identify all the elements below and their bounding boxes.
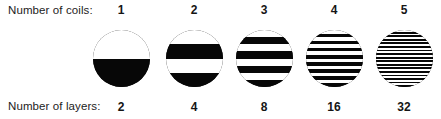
layer-count-4: 16 [324,100,344,114]
layer-band [166,59,223,73]
layer-band [236,44,293,51]
coil-cross-section-1 [93,30,150,87]
layer-band [236,66,293,73]
coil-count-5: 5 [394,3,414,17]
layer-band [236,37,293,44]
number-of-coils-label: Number of coils: [8,4,93,16]
layer-band [236,30,293,37]
coils-layers-diagram: Number of coils: Number of layers: 12243… [0,0,441,119]
layer-band [236,73,293,80]
layer-stripes [236,30,293,87]
layer-band [93,30,150,59]
layer-count-1: 2 [111,100,131,114]
layer-band [236,51,293,58]
layer-band [166,44,223,58]
layer-band [306,83,363,87]
layer-stripes [93,30,150,87]
coil-count-3: 3 [254,3,274,17]
layer-band [166,73,223,87]
coil-cross-section-3 [236,30,293,87]
coil-count-2: 2 [184,3,204,17]
layer-count-5: 32 [394,100,414,114]
coil-cross-section-5 [376,30,433,87]
layer-stripes [376,30,433,87]
coil-count-1: 1 [111,3,131,17]
coil-count-4: 4 [324,3,344,17]
layer-count-2: 4 [184,100,204,114]
layer-band [236,59,293,66]
layer-band [376,85,433,87]
number-of-layers-label: Number of layers: [8,100,100,112]
layer-band [236,80,293,87]
coil-cross-section-4 [306,30,363,87]
layer-stripes [306,30,363,87]
coil-cross-section-2 [166,30,223,87]
layer-stripes [166,30,223,87]
layer-band [93,59,150,88]
layer-band [166,30,223,44]
layer-count-3: 8 [254,100,274,114]
